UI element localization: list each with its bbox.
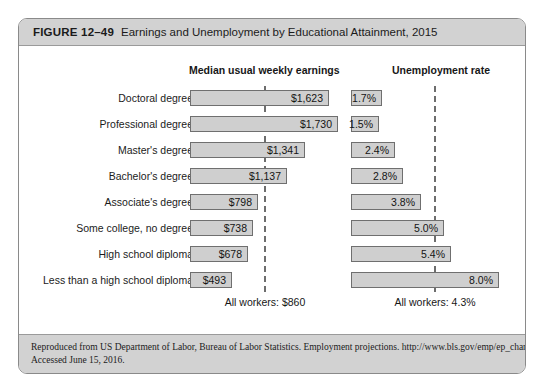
source-footer: Reproduced from US Department of Labor, … [19, 334, 525, 374]
chart-row: Master's degree$1,3412.4% [19, 142, 525, 158]
category-label: Associate's degree [105, 194, 193, 210]
earnings-bar: $738 [190, 220, 253, 236]
unemployment-bar-value: 5.4% [421, 248, 450, 260]
average-label-unemployment: All workers: 4.3% [394, 296, 475, 308]
unemployment-bar-value: 8.0% [469, 274, 498, 286]
unemployment-bar-value: 2.8% [373, 170, 402, 182]
unemployment-bar: 5.4% [351, 246, 451, 262]
category-label: Bachelor's degree [109, 168, 193, 184]
source-line-1: Reproduced from US Department of Labor, … [31, 341, 513, 354]
unemployment-bar: 5.0% [351, 220, 444, 236]
chart-area: Median usual weekly earnings Unemploymen… [19, 46, 525, 334]
earnings-bar: $493 [190, 272, 232, 288]
category-label: Doctoral degree [118, 90, 193, 106]
category-label: Master's degree [118, 142, 193, 158]
unemployment-bar: 8.0% [351, 272, 499, 288]
unemployment-bar-value: 1.5% [349, 118, 378, 130]
chart-row: Associate's degree$7983.8% [19, 194, 525, 210]
earnings-bar-value: $1,137 [249, 170, 286, 182]
chart-row: Doctoral degree$1,6231.7% [19, 90, 525, 106]
chart-row: Some college, no degree$7385.0% [19, 220, 525, 236]
earnings-bar-value: $738 [224, 222, 252, 234]
unemployment-bar: 1.7% [351, 90, 382, 106]
earnings-bar-value: $1,341 [267, 144, 304, 156]
earnings-bar-value: $678 [219, 248, 247, 260]
earnings-bar-value: $1,623 [291, 92, 328, 104]
unemployment-bar: 2.4% [351, 142, 395, 158]
chart-row: High school diploma$6785.4% [19, 246, 525, 262]
earnings-bar-value: $493 [203, 274, 231, 286]
earnings-bar-value: $1,730 [300, 118, 337, 130]
chart-row: Professional degree$1,7301.5% [19, 116, 525, 132]
unemployment-bar: 3.8% [351, 194, 421, 210]
earnings-bar: $678 [190, 246, 248, 262]
earnings-bar: $1,623 [190, 90, 329, 106]
category-label: High school diploma [98, 246, 193, 262]
unemployment-bar-value: 1.7% [352, 92, 381, 104]
unemployment-bar: 2.8% [351, 168, 403, 184]
earnings-bar: $1,137 [190, 168, 287, 184]
figure-title-bar: FIGURE 12–49 Earnings and Unemployment b… [19, 19, 525, 46]
average-label-earnings: All workers: $860 [225, 296, 306, 308]
column-header-unemployment: Unemployment rate [392, 64, 490, 76]
chart-row: Bachelor's degree$1,1372.8% [19, 168, 525, 184]
source-line-2: Accessed June 15, 2016. [31, 354, 513, 367]
earnings-bar-value: $798 [229, 196, 257, 208]
figure-title: Earnings and Unemployment by Educational… [121, 26, 437, 38]
unemployment-bar-value: 5.0% [414, 222, 443, 234]
category-label: Some college, no degree [76, 220, 193, 236]
category-label: Professional degree [100, 116, 193, 132]
figure-number: FIGURE 12–49 [33, 26, 114, 38]
unemployment-bar-value: 2.4% [365, 144, 394, 156]
column-header-earnings: Median usual weekly earnings [189, 64, 340, 76]
chart-row: Less than a high school diploma$4938.0% [19, 272, 525, 288]
earnings-bar: $1,730 [190, 116, 338, 132]
unemployment-bar: 1.5% [351, 116, 379, 132]
unemployment-bar-value: 3.8% [391, 196, 420, 208]
earnings-bar: $1,341 [190, 142, 305, 158]
earnings-bar: $798 [190, 194, 258, 210]
figure-card: FIGURE 12–49 Earnings and Unemployment b… [18, 18, 526, 374]
category-label: Less than a high school diploma [43, 272, 193, 288]
